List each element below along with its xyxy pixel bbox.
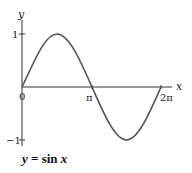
y-axis-label: y	[17, 8, 25, 21]
y-tick-label-1: 1	[12, 29, 18, 40]
caption-fn: sin	[42, 151, 61, 166]
caption-eq: =	[28, 151, 42, 166]
x-tick-label-2pi: 2π	[160, 92, 173, 103]
y-tick-label-neg-1: −1	[6, 135, 21, 146]
chart-caption: y = sin x	[20, 151, 68, 166]
caption-var: x	[60, 151, 68, 166]
sine-graph: y x 1 −1 0 π 2π y = sin x	[0, 0, 192, 173]
x-axis-label: x	[176, 80, 183, 93]
x-tick-label-pi: π	[86, 92, 93, 103]
x-tick-label-0: 0	[19, 91, 25, 102]
